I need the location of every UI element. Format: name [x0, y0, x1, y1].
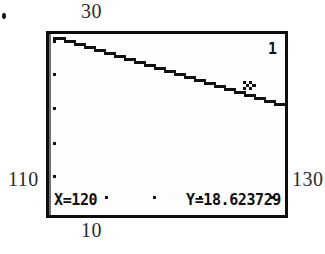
window-xmin-label: 110 — [8, 168, 39, 191]
window-ymax-label: 30 — [81, 0, 102, 23]
scan-artifact-dot — [2, 13, 6, 19]
plotted-line-series — [49, 34, 285, 215]
trace-readout-bar: X=120 Y=18.623729 — [54, 190, 281, 210]
calculator-screen[interactable]: 1 — [46, 31, 288, 218]
crosshair-trace-cursor-icon — [243, 81, 256, 92]
window-xmax-label: 130 — [292, 168, 324, 191]
trace-x-value: X=120 — [54, 191, 97, 209]
scanned-page: 30 110 130 10 1 — [0, 0, 325, 254]
graph-area[interactable]: 1 — [49, 34, 285, 215]
window-ymin-label: 10 — [81, 219, 102, 242]
trace-y-value: Y=18.623729 — [186, 191, 281, 209]
